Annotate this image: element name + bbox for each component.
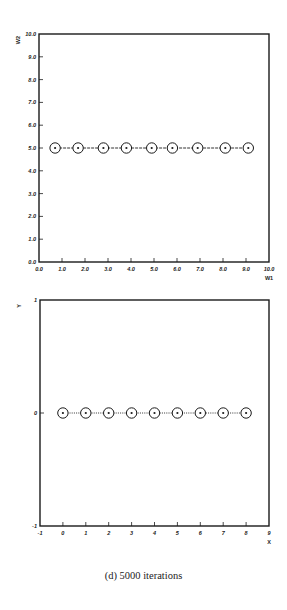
upper-plot: 0.01.02.03.04.05.06.07.08.09.010.00.01.0… — [15, 31, 274, 281]
y-tick-label: 4.0 — [27, 168, 36, 174]
y-tick-label: 6.0 — [28, 122, 36, 128]
x-tick-label: 9 — [267, 530, 271, 536]
y-tick-label: 3.0 — [28, 191, 36, 197]
x-tick-label: 0 — [61, 530, 64, 536]
data-point-marker — [121, 143, 131, 153]
y-tick-label: -1 — [32, 523, 37, 529]
x-tick-label: 6 — [199, 530, 203, 536]
data-point-marker — [241, 408, 251, 418]
x-tick-label: 5 — [176, 530, 180, 536]
x-tick-label: 10.0 — [264, 266, 275, 272]
data-point-marker — [218, 408, 228, 418]
x-axis-label: X — [267, 539, 271, 545]
x-tick-label: 8.0 — [219, 266, 227, 272]
y-tick-label: 7.0 — [28, 99, 36, 105]
data-point-marker — [243, 143, 253, 153]
data-point-marker — [167, 143, 177, 153]
data-point-marker — [172, 408, 182, 418]
data-point-marker — [147, 143, 157, 153]
x-tick-label: 4.0 — [126, 266, 135, 272]
x-tick-label: 7.0 — [196, 266, 204, 272]
y-tick-label: 1.0 — [28, 236, 36, 242]
x-axis-label: W1 — [265, 275, 273, 281]
x-tick-label: 2 — [106, 530, 110, 536]
x-tick-label: 7 — [222, 530, 226, 536]
y-tick-label: 8.0 — [28, 77, 36, 83]
x-tick-label: 6.0 — [173, 266, 181, 272]
x-tick-label: 2.0 — [80, 266, 89, 272]
data-point-marker — [81, 408, 91, 418]
y-axis-label: Y — [16, 304, 22, 308]
data-point-marker — [195, 408, 205, 418]
x-tick-label: 5.0 — [150, 266, 158, 272]
y-tick-label: 1 — [34, 297, 37, 303]
x-tick-label: 9.0 — [242, 266, 250, 272]
y-tick-label: 9.0 — [28, 54, 36, 60]
x-tick-label: 1 — [84, 530, 87, 536]
x-tick-label: 4 — [152, 530, 156, 536]
data-point-marker — [220, 143, 230, 153]
x-tick-label: 0.0 — [35, 266, 43, 272]
x-tick-label: 3 — [130, 530, 133, 536]
data-point-marker — [149, 408, 159, 418]
data-point-marker — [58, 408, 68, 418]
data-point-marker — [193, 143, 203, 153]
figure-caption: (d) 5000 iterations — [0, 570, 287, 581]
x-tick-label: 3.0 — [104, 266, 112, 272]
lower-plot: -10123456789-101XY — [16, 297, 271, 545]
y-tick-label: 5.0 — [28, 145, 36, 151]
data-point-marker — [50, 143, 60, 153]
data-point-marker — [126, 408, 136, 418]
y-tick-label: 0.0 — [28, 259, 36, 265]
y-tick-label: 0 — [34, 410, 37, 416]
x-tick-label: 1.0 — [58, 266, 66, 272]
y-tick-label: 2.0 — [27, 213, 36, 219]
y-tick-label: 10.0 — [25, 31, 36, 37]
data-point-marker — [98, 143, 108, 153]
y-axis-label: W2 — [15, 36, 21, 44]
data-point-marker — [104, 408, 114, 418]
figure: 0.01.02.03.04.05.06.07.08.09.010.00.01.0… — [0, 0, 287, 610]
x-tick-label: 8 — [245, 530, 249, 536]
data-point-marker — [73, 143, 83, 153]
x-tick-label: -1 — [38, 530, 43, 536]
